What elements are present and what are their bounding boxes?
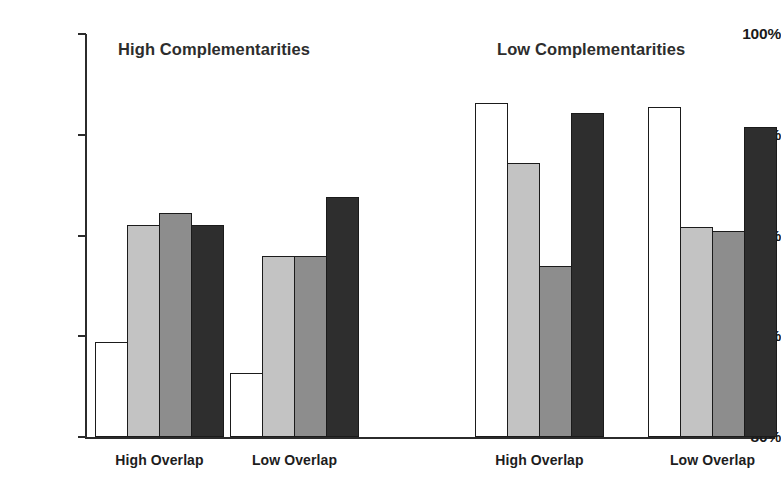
bar bbox=[95, 342, 128, 437]
y-axis-tick-label: 100% bbox=[707, 26, 781, 42]
bar bbox=[539, 266, 572, 437]
y-axis-tick bbox=[78, 235, 86, 237]
bar bbox=[159, 213, 192, 437]
y-axis-tick bbox=[78, 436, 86, 438]
bar bbox=[475, 103, 508, 437]
bar bbox=[326, 197, 359, 437]
bar bbox=[571, 113, 604, 437]
x-axis-group-label: Low Overlap bbox=[670, 452, 755, 468]
x-axis-group-label: Low Overlap bbox=[252, 452, 337, 468]
y-axis-tick bbox=[78, 134, 86, 136]
bar bbox=[680, 227, 713, 437]
bar bbox=[191, 225, 224, 437]
x-axis-group-label: High Overlap bbox=[495, 452, 583, 468]
y-axis-line bbox=[85, 34, 87, 439]
panel-title-low-complementarities: Low Complementarities bbox=[497, 40, 685, 59]
x-axis-line bbox=[85, 437, 775, 439]
y-axis-tick bbox=[78, 33, 86, 35]
y-axis-tick bbox=[78, 335, 86, 337]
x-axis-group-label: High Overlap bbox=[115, 452, 203, 468]
bar bbox=[744, 127, 777, 437]
bar bbox=[127, 225, 160, 437]
bar bbox=[648, 107, 681, 437]
bar bbox=[712, 231, 745, 437]
bar bbox=[230, 373, 263, 437]
panel-title-high-complementarities: High Complementarities bbox=[118, 40, 310, 59]
bar bbox=[294, 256, 327, 437]
bar bbox=[262, 256, 295, 437]
bar bbox=[507, 163, 540, 437]
bar-chart: 100%95%90%85%80% High Complementarities … bbox=[0, 0, 781, 496]
